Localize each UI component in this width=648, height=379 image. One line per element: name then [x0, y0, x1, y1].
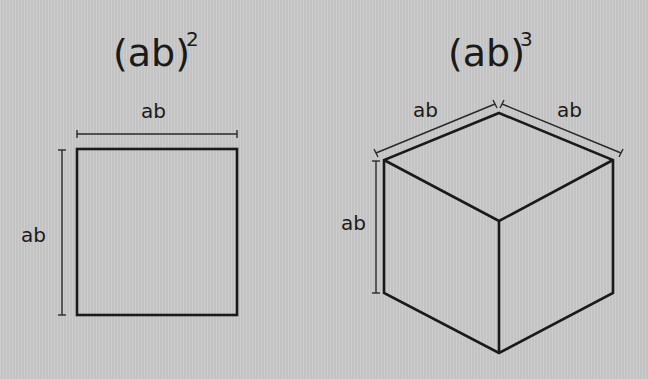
cube-right-top-label: ab [557, 98, 582, 122]
cube-diagram: (ab) 3 ab ab ab [341, 27, 623, 353]
square-side-label: ab [21, 223, 46, 247]
square-title-exponent: 2 [186, 27, 199, 51]
square-title: (ab) [113, 31, 190, 75]
square-side-dimension-line [58, 150, 66, 315]
cube-title-exponent: 3 [520, 27, 533, 51]
square-diagram: (ab) 2 ab ab [21, 27, 237, 315]
cube-shape [384, 113, 613, 353]
cube-side-label: ab [341, 211, 366, 235]
square-top-label: ab [141, 99, 166, 123]
cube-left-top-label: ab [413, 98, 438, 122]
diagram-canvas: (ab) 2 ab ab (ab) 3 ab ab [0, 0, 648, 379]
cube-side-dimension-line [372, 161, 380, 293]
square-shape [77, 149, 237, 315]
cube-title: (ab) [448, 31, 525, 75]
square-top-dimension-line [77, 130, 237, 138]
